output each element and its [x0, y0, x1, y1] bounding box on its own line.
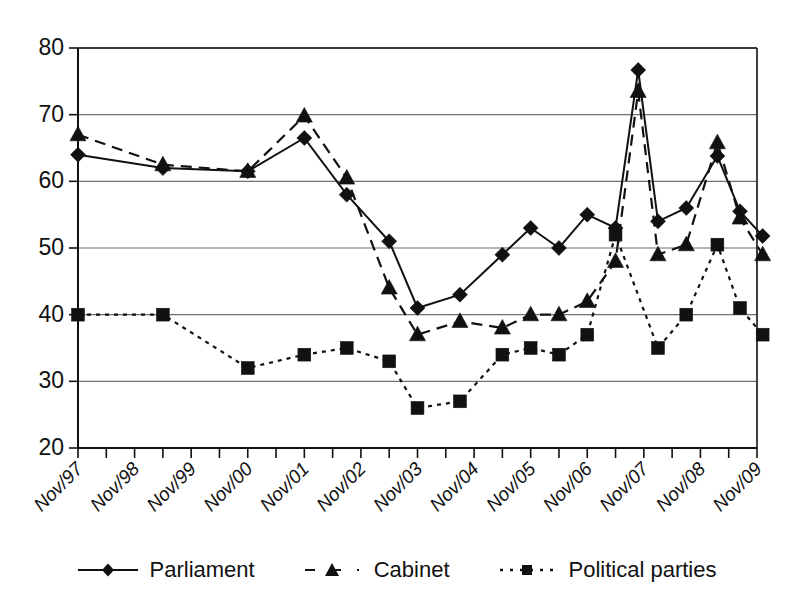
data-point-political-parties-17	[756, 328, 769, 341]
x-axis-label-4: Nov/01	[256, 458, 313, 515]
data-point-political-parties-15	[711, 238, 724, 251]
data-point-political-parties-2	[241, 362, 254, 375]
data-point-parliament-3	[297, 131, 312, 146]
data-point-political-parties-1	[156, 308, 169, 321]
x-axis-label-6: Nov/03	[369, 458, 427, 516]
series-line-cabinet	[78, 91, 763, 334]
data-point-parliament-6	[410, 301, 425, 316]
data-point-cabinet-0	[70, 126, 86, 141]
x-axis-label-1: Nov/98	[86, 458, 144, 516]
line-chart: 20304050607080Nov/97Nov/98Nov/99Nov/00No…	[0, 0, 793, 604]
chart-canvas: 20304050607080Nov/97Nov/98Nov/99Nov/00No…	[0, 0, 793, 604]
y-axis-label-50: 50	[38, 234, 64, 260]
x-axis-label-5: Nov/02	[312, 458, 370, 516]
x-axis-label-12: Nov/09	[708, 458, 766, 516]
y-axis-label-20: 20	[38, 434, 64, 460]
y-axis-label-30: 30	[38, 367, 64, 393]
x-axis-label-10: Nov/07	[595, 457, 653, 515]
data-point-cabinet-5	[381, 280, 397, 295]
data-point-cabinet-13	[630, 83, 646, 98]
data-point-political-parties-13	[652, 342, 665, 355]
data-point-cabinet-15	[678, 236, 694, 251]
y-axis-label-80: 80	[38, 34, 64, 60]
data-point-political-parties-12	[609, 228, 622, 241]
data-point-political-parties-4	[340, 342, 353, 355]
series-line-parliament	[78, 70, 763, 308]
legend-label-political-parties: Political parties	[569, 557, 717, 583]
data-point-political-parties-11	[581, 328, 594, 341]
data-point-parliament-13	[631, 63, 646, 78]
legend-key-dashed-triangle	[301, 559, 363, 581]
legend-label-cabinet: Cabinet	[374, 557, 450, 583]
legend-label-parliament: Parliament	[150, 557, 255, 583]
x-axis-label-3: Nov/00	[199, 458, 257, 516]
x-axis-label-7: Nov/04	[425, 458, 482, 515]
x-axis-label-9: Nov/06	[539, 458, 597, 516]
data-point-political-parties-3	[298, 348, 311, 361]
data-point-parliament-0	[71, 147, 86, 162]
y-axis-label-70: 70	[38, 101, 64, 127]
legend-key-dotted-square	[496, 559, 558, 581]
legend-key-solid-diamond	[77, 559, 139, 581]
legend-entry-parliament[interactable]: Parliament	[77, 557, 255, 583]
data-point-political-parties-8	[496, 348, 509, 361]
data-point-political-parties-5	[383, 355, 396, 368]
data-point-political-parties-0	[72, 308, 85, 321]
data-point-political-parties-10	[553, 348, 566, 361]
data-point-cabinet-10	[551, 306, 567, 321]
chart-legend: Parliament Cabinet Political parties	[0, 549, 793, 591]
legend-entry-cabinet[interactable]: Cabinet	[301, 557, 450, 583]
data-point-political-parties-7	[454, 395, 467, 408]
x-axis-label-11: Nov/08	[652, 458, 710, 516]
data-point-political-parties-16	[734, 302, 747, 315]
x-axis-label-2: Nov/99	[143, 458, 201, 516]
data-point-political-parties-6	[411, 402, 424, 415]
data-point-parliament-15	[679, 201, 694, 216]
data-point-cabinet-16	[709, 134, 725, 149]
x-axis-label-0: Nov/97	[29, 457, 87, 515]
data-point-cabinet-1	[155, 156, 171, 171]
y-axis-label-60: 60	[38, 167, 64, 193]
data-point-parliament-16	[710, 149, 725, 164]
data-point-political-parties-9	[524, 342, 537, 355]
data-point-cabinet-9	[523, 306, 539, 321]
x-axis-label-8: Nov/05	[482, 458, 540, 516]
data-point-cabinet-4	[339, 170, 355, 185]
y-axis-label-40: 40	[38, 301, 64, 327]
data-point-political-parties-14	[680, 308, 693, 321]
legend-entry-political-parties[interactable]: Political parties	[496, 557, 717, 583]
